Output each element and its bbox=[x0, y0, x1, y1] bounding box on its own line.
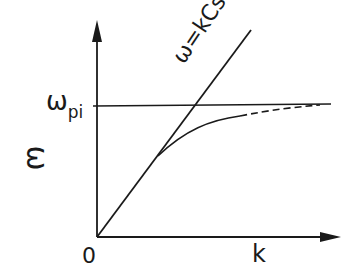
origin-label: 0 bbox=[82, 245, 96, 267]
dispersion-curve-dashed bbox=[240, 105, 320, 116]
omega-pi-asymptote bbox=[93, 104, 331, 106]
omega-pi-label: ωpi bbox=[46, 88, 83, 114]
x-axis-arrow-icon bbox=[320, 232, 341, 242]
y-axis-label: ω bbox=[22, 145, 52, 170]
x-axis-label: k bbox=[252, 242, 266, 266]
sound-wave-line bbox=[97, 30, 251, 237]
y-axis-arrow-icon bbox=[92, 20, 102, 42]
dispersion-curve bbox=[158, 116, 240, 156]
